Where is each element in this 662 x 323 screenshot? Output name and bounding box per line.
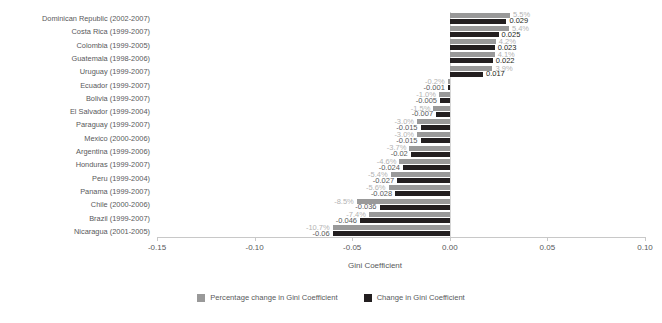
bar-percentage-change <box>369 212 450 217</box>
category-label: Dominican Republic (2002-2007) <box>0 12 150 25</box>
bar-gini-change <box>403 165 450 170</box>
bar-gini-change <box>436 112 450 117</box>
category-label: Nicaragua (2001-2005) <box>0 225 150 238</box>
x-axis-title: Gini Coefficient <box>0 261 662 270</box>
bar-percentage-change <box>391 172 450 177</box>
bar-group: 5.4%0.025 <box>157 25 645 38</box>
bar-gini-change <box>333 231 450 236</box>
value-label-gini-change: -0.028 <box>371 190 395 198</box>
x-axis-tick-label: -0.10 <box>245 243 263 252</box>
x-axis-tick-label: -0.05 <box>343 243 361 252</box>
category-label: Panama (1999-2007) <box>0 185 150 198</box>
bar-group: -5.6%-0.028 <box>157 185 645 198</box>
category-label: Brazil (1999-2007) <box>0 212 150 225</box>
category-label: Uruguay (1999-2007) <box>0 65 150 78</box>
x-axis-title-text: Gini Coefficient <box>348 261 402 270</box>
bar-percentage-change <box>450 39 496 44</box>
bar-gini-change <box>395 191 450 196</box>
category-label: Guatemala (1998-2006) <box>0 52 150 65</box>
bar-percentage-change <box>399 159 449 164</box>
category-axis-labels: Dominican Republic (2002-2007)Costa Rica… <box>0 12 150 237</box>
bar-gini-change <box>450 19 507 24</box>
category-label: Bolivia (1999-2007) <box>0 92 150 105</box>
category-label: Chile (2000-2006) <box>0 198 150 211</box>
bar-gini-change <box>450 32 499 37</box>
chart-legend: Percentage change in Gini Coefficient Ch… <box>0 293 662 302</box>
legend-swatch-change <box>364 294 372 302</box>
category-label: El Salvador (1999-2004) <box>0 105 150 118</box>
bar-percentage-change <box>439 92 450 97</box>
bar-group: -4.6%-0.024 <box>157 158 645 171</box>
legend-label-percentage-change: Percentage change in Gini Coefficient <box>210 293 337 302</box>
bar-percentage-change <box>450 52 495 57</box>
category-label: Peru (1999-2004) <box>0 172 150 185</box>
bar-gini-change <box>448 85 450 90</box>
bar-percentage-change <box>389 185 450 190</box>
bar-group: 5.5%0.029 <box>157 12 645 25</box>
legend-swatch-percentage-change <box>197 294 205 302</box>
category-label: Ecuador (1999-2007) <box>0 79 150 92</box>
x-axis-tick <box>352 237 353 241</box>
bar-gini-change <box>360 218 450 223</box>
plot-area: 5.5%0.0295.4%0.0254.2%0.0234.1%0.0223.9%… <box>157 12 645 237</box>
category-label: Argentina (1999-2006) <box>0 145 150 158</box>
x-axis-tick-label: 0.00 <box>442 243 458 252</box>
bar-percentage-change <box>450 13 510 18</box>
bar-group: -3.7%-0.02 <box>157 145 645 158</box>
x-axis-line <box>157 237 646 238</box>
category-label: Costa Rica (1999-2007) <box>0 25 150 38</box>
bar-percentage-change <box>417 132 450 137</box>
value-label-gini-change: -0.007 <box>412 110 436 118</box>
bar-gini-change <box>421 125 450 130</box>
bar-percentage-change <box>333 225 450 230</box>
x-axis-tick-label: 0.10 <box>637 243 653 252</box>
bar-gini-change <box>421 138 450 143</box>
bar-group: -7.4%-0.046 <box>157 212 645 225</box>
legend-item-percentage-change: Percentage change in Gini Coefficient <box>197 293 337 302</box>
gini-coefficient-chart: Dominican Republic (2002-2007)Costa Rica… <box>0 0 662 323</box>
bar-group: -1.0%-0.005 <box>157 92 645 105</box>
bar-gini-change <box>440 98 450 103</box>
x-axis-tick-label: 0.05 <box>540 243 556 252</box>
x-axis-tick <box>255 237 256 241</box>
bar-group: -5.4%-0.027 <box>157 172 645 185</box>
bar-group: -8.5%-0.036 <box>157 198 645 211</box>
bar-gini-change <box>450 58 493 63</box>
x-axis-tick <box>450 237 451 241</box>
bar-gini-change <box>397 178 450 183</box>
category-label: Honduras (1999-2007) <box>0 158 150 171</box>
bar-group: 4.1%0.022 <box>157 52 645 65</box>
bar-percentage-change <box>409 146 449 151</box>
category-label: Paraguay (1999-2007) <box>0 118 150 131</box>
bar-group: 4.2%0.023 <box>157 39 645 52</box>
x-axis-tick <box>547 237 548 241</box>
category-label: Colombia (1999-2005) <box>0 39 150 52</box>
bar-gini-change <box>411 152 450 157</box>
x-axis-tick <box>157 237 158 241</box>
x-axis-tick <box>645 237 646 241</box>
bar-gini-change <box>450 72 483 77</box>
value-label-gini-change: 0.017 <box>483 70 505 78</box>
legend-item-change: Change in Gini Coefficient <box>364 293 465 302</box>
bar-group: 3.9%0.017 <box>157 65 645 78</box>
bar-percentage-change <box>448 79 450 84</box>
category-label: Mexico (2000-2006) <box>0 132 150 145</box>
legend-label-change: Change in Gini Coefficient <box>377 293 465 302</box>
bar-gini-change <box>450 45 495 50</box>
bar-gini-change <box>380 205 450 210</box>
bar-group: -0.2%-0.001 <box>157 79 645 92</box>
bar-percentage-change <box>417 119 450 124</box>
value-label-gini-change: -0.046 <box>336 217 360 225</box>
value-label-percentage-change: -8.5% <box>334 198 357 206</box>
x-axis-tick-label: -0.15 <box>148 243 166 252</box>
